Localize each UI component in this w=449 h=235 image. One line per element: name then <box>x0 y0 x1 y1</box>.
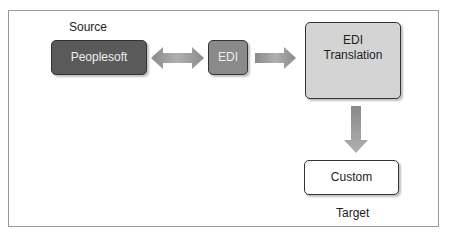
down-arrow-icon <box>344 106 368 153</box>
right-arrow-icon <box>255 47 296 69</box>
connector-arrows <box>0 0 449 235</box>
bidirectional-arrow-icon <box>151 47 204 69</box>
